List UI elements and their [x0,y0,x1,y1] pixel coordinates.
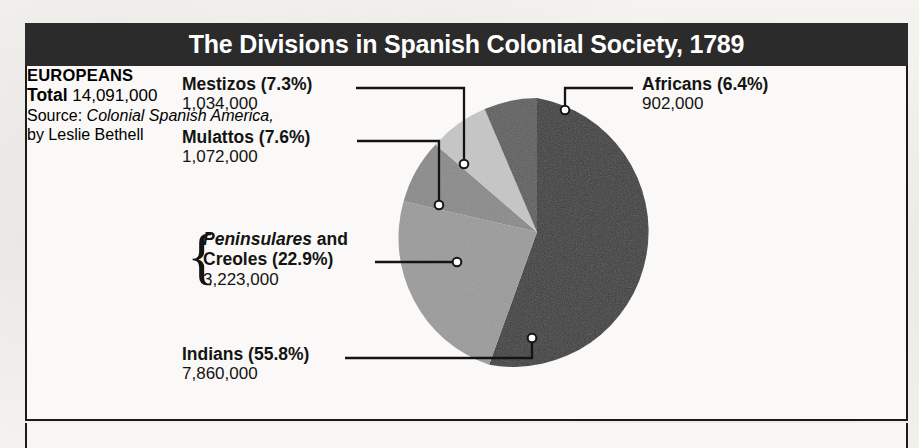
callout-africans-value: 902,000 [642,94,768,114]
figure-title-bar: The Divisions in Spanish Colonial Societ… [25,23,908,66]
callout-peninsulares-creoles: Peninsulares and Creoles (22.9%) 3,223,0… [203,229,348,289]
callout-indians: Indians (55.8%) 7,860,000 [182,344,309,384]
leader-dot-creoles [453,258,462,267]
callout-creoles-heading-line1: Peninsulares and [203,229,348,249]
callout-mulattos-value: 1,072,000 [182,147,310,167]
leader-dot-mestizos [460,160,469,169]
callout-mestizos-heading: Mestizos (7.3%) [182,74,312,94]
page-title: The Divisions in Spanish Colonial Societ… [189,30,745,59]
callout-indians-heading: Indians (55.8%) [182,344,309,364]
pie-graphic [27,66,906,419]
callout-mulattos-heading: Mulattos (7.6%) [182,127,310,147]
leader-dot-africans [561,106,570,115]
callout-creoles-and-word: and [312,229,348,249]
callout-creoles-heading-line2: Creoles (22.9%) [203,249,348,269]
callout-africans-heading: Africans (6.4%) [642,74,768,94]
leader-line-africans [565,88,633,108]
pie-chart-area: Mestizos (7.3%) 1,034,000 Mulattos (7.6%… [27,66,906,419]
callout-mestizos-value: 1,034,000 [182,94,312,114]
lower-continuation-panel [25,423,908,448]
callout-africans: Africans (6.4%) 902,000 [642,74,768,114]
callout-indians-value: 7,860,000 [182,364,309,384]
pie-slices [398,98,648,367]
callout-mulattos: Mulattos (7.6%) 1,072,000 [182,127,310,167]
leader-dot-indians [528,334,537,343]
callout-creoles-italic-word: Peninsulares [203,229,312,249]
callout-creoles-value: 3,223,000 [203,270,348,290]
pie-svg [27,66,906,419]
leader-dot-mulattos [435,201,444,210]
callout-mestizos: Mestizos (7.3%) 1,034,000 [182,74,312,114]
curly-brace-icon: { [187,226,203,290]
